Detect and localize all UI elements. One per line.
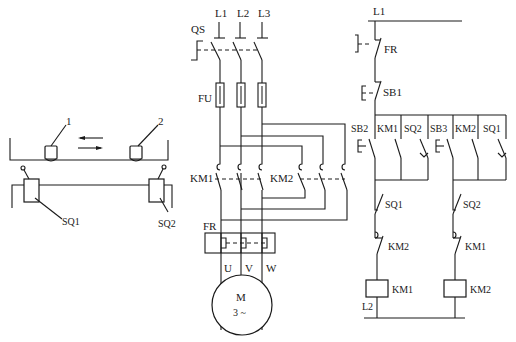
supply-terminals: [214, 22, 268, 38]
arrow-right-icon: [96, 146, 103, 150]
sq2-nc-label: SQ2: [463, 199, 481, 210]
fuses-fu: [216, 83, 266, 107]
sb2-label: SB2: [351, 123, 368, 134]
coil-km2: KM2: [444, 280, 491, 318]
motor-m: M 3 ~: [212, 275, 272, 335]
supply-l3-label: L3: [258, 7, 271, 19]
thermal-overload-fr: [205, 233, 275, 253]
sq1-branch2-label: SQ1: [483, 123, 501, 134]
sq1-nc-contact: SQ1: [375, 180, 403, 238]
sq1-nc-label: SQ1: [385, 199, 403, 210]
km1-interlock-contact: KM1: [453, 232, 486, 280]
arrow-left-icon: [78, 136, 85, 140]
limit-switch-sq1: SQ1: [21, 166, 80, 227]
km2-hold-label: KM2: [455, 123, 476, 134]
supply-l1-label: L1: [215, 7, 227, 19]
sq2-branch1-label: SQ2: [404, 123, 422, 134]
mechanical-layout: 1 2 SQ1: [10, 115, 176, 229]
stop-block-1: 1: [45, 115, 72, 161]
sq2-label: SQ2: [158, 218, 176, 229]
reversing-circuit-diagram: 1 2 SQ1: [0, 0, 516, 342]
terminal-u: U: [224, 262, 232, 274]
part-1-label: 1: [66, 115, 72, 127]
km2-interlock-label: KM2: [388, 241, 409, 252]
km2-interlock-contact: KM2: [375, 232, 409, 280]
coil-km1: KM1 L2: [362, 280, 413, 318]
coil-km1-label: KM1: [392, 284, 413, 295]
terminal-v: V: [245, 262, 253, 274]
fr-control-label: FR: [384, 43, 398, 55]
sq1-label: SQ1: [62, 216, 80, 227]
stop-block-2: 2: [130, 115, 164, 161]
stop-button-sb1[interactable]: SB1: [362, 81, 402, 115]
motor-label: M: [236, 291, 246, 303]
motor-phase-label: 3 ~: [233, 307, 247, 318]
fr-main-label: FR: [203, 220, 217, 232]
sb1-label: SB1: [383, 86, 402, 98]
isolator-qs: [191, 41, 262, 83]
control-l2-label: L2: [362, 301, 373, 312]
contactor-km2-main: [221, 162, 347, 220]
km2-main-label: KM2: [270, 172, 293, 184]
feed-v-km2: [241, 136, 323, 162]
sb3-label: SB3: [430, 123, 447, 134]
km1-main-label: KM1: [190, 172, 213, 184]
qs-label: QS: [191, 23, 205, 35]
part-2-label: 2: [158, 115, 164, 127]
supply-l2-label: L2: [237, 7, 249, 19]
fu-label: FU: [198, 92, 212, 104]
feed-u-km2: [220, 146, 302, 162]
control-l1-label: L1: [373, 5, 385, 17]
direction-arrows: [78, 136, 103, 150]
main-power-circuit: L1 L2 L3 QS FU: [190, 7, 347, 335]
sq2-nc-contact: SQ2: [453, 180, 481, 238]
worktable-rail: [10, 138, 168, 160]
km1-interlock-label: KM1: [465, 241, 486, 252]
terminal-w: W: [266, 262, 277, 274]
coil-km2-label: KM2: [470, 284, 491, 295]
feed-w-km2: [262, 124, 345, 162]
km1-hold-label: KM1: [377, 123, 398, 134]
fr-nc-contact: FR: [355, 35, 398, 82]
control-circuit: L1 FR SB1 SB2 KM1 SQ2: [351, 5, 506, 318]
